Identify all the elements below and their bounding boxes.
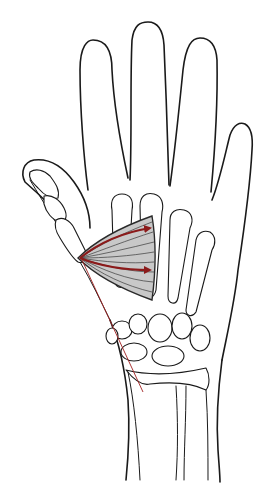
thumb-bones [29, 170, 86, 263]
forearm-bones [126, 368, 209, 480]
hand-anatomy-diagram [0, 0, 269, 488]
